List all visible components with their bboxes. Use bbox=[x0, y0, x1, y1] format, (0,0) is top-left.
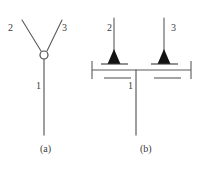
panel-a-graphic bbox=[22, 20, 62, 135]
panel-a-branch-left-line bbox=[22, 20, 41, 51]
panel-b-caption: (b) bbox=[140, 144, 152, 154]
panel-b-label-lead-left: 2 bbox=[107, 23, 112, 33]
panel-b-label-stem: 1 bbox=[128, 81, 133, 91]
panel-b-triangle-left bbox=[108, 49, 121, 64]
panel-a-label-branch-left: 2 bbox=[8, 23, 13, 33]
panel-a-node-circle bbox=[40, 51, 48, 59]
panel-b-label-lead-right: 3 bbox=[171, 23, 176, 33]
panel-a-label-stem: 1 bbox=[36, 81, 41, 91]
figure-container: 2 3 1 (a) 2 3 1 (b) bbox=[0, 0, 206, 170]
panel-a-label-branch-right: 3 bbox=[62, 23, 67, 33]
panel-a-caption: (a) bbox=[40, 144, 51, 154]
panel-b-graphic bbox=[92, 18, 191, 135]
panel-a-branch-right-line bbox=[47, 20, 62, 51]
panel-b-triangle-right bbox=[158, 49, 171, 64]
